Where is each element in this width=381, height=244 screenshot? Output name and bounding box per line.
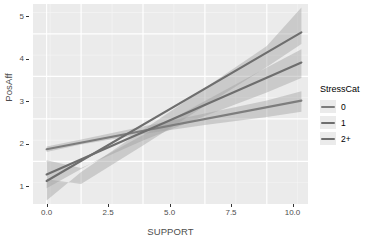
legend-title: StressCat (320, 84, 381, 94)
legend-label-0: 0 (341, 102, 346, 112)
x-tick-label-5: 5.0 (164, 209, 175, 217)
legend-label-2plus: 2+ (341, 134, 351, 144)
legend-key-swatch-0 (320, 100, 336, 113)
x-tick-mark-10 (293, 204, 294, 207)
legend-item-0[interactable]: 0 (320, 99, 381, 114)
x-axis-title: SUPPORT (33, 226, 308, 237)
chart-root: 1 2 3 4 5 PosAff 0.0 2.5 5.0 7.5 10.0 SU… (0, 0, 381, 244)
legend-key-swatch-1 (320, 116, 336, 129)
legend: StressCat 0 1 2+ (320, 84, 381, 147)
legend-item-1[interactable]: 1 (320, 115, 381, 130)
x-tick-mark-0 (47, 204, 48, 207)
y-tick-mark-2 (26, 144, 29, 145)
y-tick-label-5: 5 (8, 13, 24, 21)
legend-line-icon (321, 138, 335, 140)
x-tick-label-2_5: 2.5 (103, 209, 114, 217)
y-tick-label-2: 2 (8, 140, 24, 148)
y-tick-mark-3 (26, 101, 29, 102)
y-axis-tick-labels: 1 2 3 4 5 (8, 0, 24, 244)
y-tick-mark-1 (26, 186, 29, 187)
plot-area-svg (33, 4, 308, 204)
legend-label-1: 1 (341, 118, 346, 128)
legend-line-icon (321, 106, 335, 108)
legend-key-swatch-2plus (320, 132, 336, 145)
y-tick-mark-4 (26, 59, 29, 60)
x-tick-label-0: 0.0 (41, 209, 52, 217)
legend-line-icon (321, 122, 335, 124)
y-tick-mark-5 (26, 16, 29, 17)
plot-panel (33, 4, 308, 204)
x-tick-mark-2_5 (108, 204, 109, 207)
x-tick-label-7_5: 7.5 (225, 209, 236, 217)
x-tick-label-10: 10.0 (285, 209, 301, 217)
y-tick-label-1: 1 (8, 183, 24, 191)
x-tick-mark-5 (170, 204, 171, 207)
legend-item-2plus[interactable]: 2+ (320, 131, 381, 146)
x-tick-mark-7_5 (231, 204, 232, 207)
y-axis-title: PosAff (3, 58, 14, 118)
